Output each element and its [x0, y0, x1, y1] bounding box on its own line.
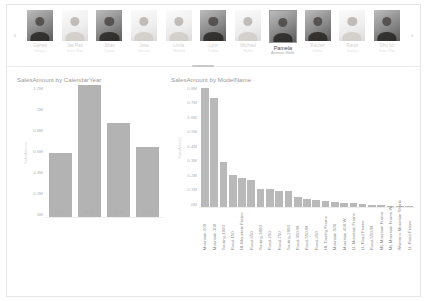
bar-slot[interactable] [303, 88, 311, 207]
bar-slot[interactable] [331, 88, 339, 207]
chart-sales-by-calendaryear[interactable]: SalesAmount by CalendarYear SalesAmount … [15, 75, 165, 293]
carousel-person[interactable]: JillianCarson [93, 9, 125, 54]
bar-slot[interactable] [350, 88, 358, 207]
carousel-person[interactable]: LindaMitchell [163, 9, 195, 54]
chart-title: SalesAmount by CalendarYear [17, 75, 165, 84]
bar-slot[interactable] [210, 88, 218, 207]
bar-slot[interactable] [322, 88, 330, 207]
carousel-person[interactable]: MichaelBlythe [232, 9, 264, 54]
person-avatar[interactable] [27, 10, 53, 41]
person-avatar[interactable] [131, 10, 157, 41]
carousel-next-arrow-icon[interactable]: › [404, 5, 420, 67]
person-title: Valdez [312, 49, 323, 54]
carousel-person[interactable]: Jae PakSales Rep [59, 9, 91, 54]
bar-slot[interactable] [396, 88, 404, 207]
bar-slot[interactable] [229, 88, 237, 207]
carousel-person[interactable]: JoseSaraiva [128, 9, 160, 54]
x-axis-label: 2006 [84, 210, 94, 215]
bar-slot[interactable] [377, 88, 385, 207]
bar[interactable] [210, 98, 218, 207]
bar-slot[interactable] [285, 88, 293, 207]
bar-slot[interactable] [201, 88, 209, 207]
x-axis-label: Mountain-200 [202, 200, 207, 250]
bar-slot[interactable] [238, 88, 246, 207]
carousel-person[interactable]: LynnTsoflias [197, 9, 229, 54]
person-avatar[interactable] [166, 10, 192, 41]
x-axis-label: Road-650 [249, 200, 254, 250]
bar-slot[interactable] [387, 88, 395, 207]
bar-slot[interactable] [107, 88, 130, 217]
person-avatar[interactable] [200, 10, 226, 41]
bar-slot[interactable] [312, 88, 320, 207]
bar-slot[interactable] [294, 88, 302, 207]
x-label-slot: LL Road Frame [405, 197, 413, 250]
x-axis-label: LL Mountain Frame [351, 200, 356, 250]
carousel-person[interactable]: RanjitVarkey [336, 9, 368, 54]
y-axis-tick: 0M [191, 203, 197, 207]
bar[interactable] [107, 123, 130, 217]
x-label-slot: Mountain-500 [331, 197, 339, 250]
x-axis-label: Women's Mountain Shorts [397, 200, 402, 250]
carousel-person[interactable]: GarrettVargas [24, 9, 56, 54]
bar-slot[interactable] [220, 88, 228, 207]
bar-slot[interactable] [266, 88, 274, 207]
x-label-slot: HL Mountain Frame [238, 197, 246, 250]
person-carousel[interactable]: ‹ GarrettVargasJae PakSales RepJillianCa… [7, 5, 420, 67]
x-label-slot: 2008 [136, 207, 159, 215]
bar-slot[interactable] [78, 88, 101, 217]
y-axis-tick: 1.2M [33, 87, 43, 91]
x-axis-label: 2005 [55, 210, 65, 215]
person-avatar[interactable] [96, 10, 122, 41]
x-label-slot: Road-450 [312, 197, 320, 250]
x-label-slot: Touring-1000 [220, 197, 228, 250]
x-label-slot: LL Mountain Frame [350, 197, 358, 250]
person-avatar[interactable] [235, 10, 261, 41]
y-axis-tick: 0.2M [33, 192, 43, 196]
carousel-person[interactable]: Shu ItoSales Rep [371, 9, 403, 54]
x-label-slot: Road-650 [247, 197, 255, 250]
chart-sales-by-modelname[interactable]: SalesAmount by ModelName SalesAmount 0.8… [169, 75, 417, 293]
x-axis-label: 2008 [142, 210, 152, 215]
bar-slot[interactable] [368, 88, 376, 207]
carousel-person-selected[interactable]: PamelaAnsman-Wolfe [267, 9, 299, 56]
x-axis-label: LL Road Frame [407, 200, 412, 250]
carousel-track[interactable]: GarrettVargasJae PakSales RepJillianCars… [23, 5, 404, 67]
carousel-prev-arrow-icon[interactable]: ‹ [7, 5, 23, 67]
y-axis-tick: 0.6M [33, 150, 43, 154]
x-label-slot: ML Mountain Frame [377, 197, 385, 250]
y-axis-tick: 0.7M [187, 101, 197, 105]
y-axis-tick: 1M [37, 108, 43, 112]
person-avatar[interactable] [339, 10, 365, 41]
x-axis-label: Touring-1000 [221, 200, 226, 250]
bar-slot[interactable] [247, 88, 255, 207]
person-avatar[interactable] [269, 10, 297, 43]
x-label-slot: Road-350-W [294, 197, 302, 250]
carousel-scrollbar-thumb[interactable] [192, 65, 214, 67]
x-axis-labels: 2005200620072008 [45, 207, 163, 215]
carousel-person[interactable]: RachelValdez [302, 9, 334, 54]
x-axis-label: Touring-3000 [258, 200, 263, 250]
bar-slot[interactable] [49, 88, 72, 217]
x-label-slot: Road-550-W [303, 197, 311, 250]
bar-slot[interactable] [275, 88, 283, 207]
bar[interactable] [201, 88, 209, 207]
person-title: Ansman-Wolfe [271, 51, 295, 56]
person-avatar[interactable] [305, 10, 331, 41]
carousel-scrollbar[interactable] [7, 65, 420, 68]
y-axis-tick: 0.6M [187, 116, 197, 120]
person-avatar[interactable] [62, 10, 88, 41]
person-avatar[interactable] [374, 10, 400, 41]
y-axis-tick: 0.1M [187, 188, 197, 192]
bar-slot[interactable] [359, 88, 367, 207]
bar-slot[interactable] [257, 88, 265, 207]
bar-slot[interactable] [136, 88, 159, 217]
x-axis-label: Touring-2000 [286, 200, 291, 250]
report-canvas: ‹ GarrettVargasJae PakSales RepJillianCa… [6, 4, 421, 297]
bar-slot[interactable] [405, 88, 413, 207]
y-axis-tick: 0.3M [187, 159, 197, 163]
bar-slot[interactable] [340, 88, 348, 207]
x-label-slot: Mountain-400-W [340, 197, 348, 250]
x-label-slot: Women's Mountain Shorts [396, 197, 404, 250]
bar[interactable] [78, 85, 101, 217]
x-axis-label: 2007 [113, 210, 123, 215]
